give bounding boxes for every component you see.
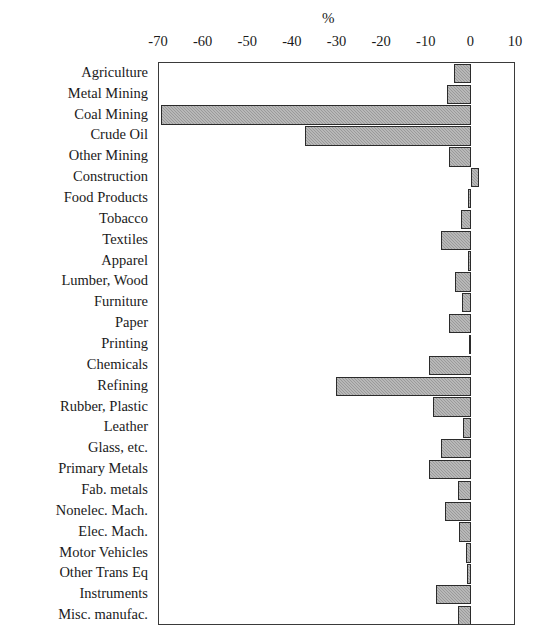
x-axis-unit-label: % bbox=[322, 10, 335, 27]
bar bbox=[455, 272, 471, 291]
y-axis-label: Chemicals bbox=[0, 357, 152, 372]
bars-layer bbox=[159, 63, 514, 624]
bar bbox=[433, 397, 471, 416]
bar bbox=[468, 189, 471, 208]
y-axis-label: Crude Oil bbox=[0, 127, 152, 142]
x-tick-label: -50 bbox=[225, 33, 269, 50]
bar bbox=[467, 564, 471, 583]
y-axis-label: Refining bbox=[0, 378, 152, 393]
bar bbox=[429, 460, 471, 479]
y-axis-label: Rubber, Plastic bbox=[0, 399, 152, 414]
bar bbox=[469, 335, 471, 354]
bar bbox=[445, 502, 471, 521]
bar bbox=[447, 85, 471, 104]
bar bbox=[458, 481, 472, 500]
bar bbox=[449, 147, 471, 166]
x-tick-label: -60 bbox=[181, 33, 225, 50]
y-axis-label: Instruments bbox=[0, 586, 152, 601]
y-axis-label: Tobacco bbox=[0, 211, 152, 226]
bar bbox=[463, 418, 471, 437]
bar bbox=[462, 293, 472, 312]
x-tick-label: -30 bbox=[315, 33, 359, 50]
y-axis-label: Textiles bbox=[0, 232, 152, 247]
bar bbox=[429, 356, 471, 375]
x-tick-label: -20 bbox=[359, 33, 403, 50]
y-axis-label: Apparel bbox=[0, 253, 152, 268]
bar bbox=[468, 251, 471, 270]
y-axis-label: Construction bbox=[0, 169, 152, 184]
y-axis-label: Leather bbox=[0, 419, 152, 434]
y-axis-label: Metal Mining bbox=[0, 86, 152, 101]
bar bbox=[441, 439, 471, 458]
y-axis-label: Printing bbox=[0, 336, 152, 351]
bar bbox=[458, 606, 472, 624]
bar bbox=[441, 231, 471, 250]
y-axis-label: Agriculture bbox=[0, 65, 152, 80]
bar bbox=[336, 377, 472, 396]
y-axis-label: Elec. Mach. bbox=[0, 524, 152, 539]
y-axis-label: Nonelec. Mach. bbox=[0, 503, 152, 518]
bar bbox=[459, 522, 471, 541]
y-axis-label: Paper bbox=[0, 315, 152, 330]
y-axis-label: Furniture bbox=[0, 294, 152, 309]
y-axis-label: Misc. manufac. bbox=[0, 607, 152, 622]
bar bbox=[436, 585, 472, 604]
y-axis-label: Primary Metals bbox=[0, 461, 152, 476]
y-axis-label: Other Trans Eq bbox=[0, 565, 152, 580]
bar bbox=[305, 126, 471, 145]
x-tick-label: -70 bbox=[136, 33, 180, 50]
x-tick-label: -40 bbox=[270, 33, 314, 50]
y-axis-label: Glass, etc. bbox=[0, 440, 152, 455]
plot-frame bbox=[158, 62, 515, 625]
bar bbox=[454, 64, 472, 83]
x-tick-label: 10 bbox=[493, 33, 537, 50]
x-axis-tick-labels: -70-60-50-40-30-20-10010 bbox=[0, 33, 546, 53]
bar bbox=[161, 105, 471, 124]
bar bbox=[449, 314, 472, 333]
y-axis-label: Motor Vehicles bbox=[0, 545, 152, 560]
x-tick-label: -10 bbox=[404, 33, 448, 50]
y-axis-label: Food Products bbox=[0, 190, 152, 205]
bar bbox=[471, 168, 479, 187]
bar bbox=[466, 543, 472, 562]
x-tick-label: 0 bbox=[448, 33, 492, 50]
y-axis-label: Fab. metals bbox=[0, 482, 152, 497]
y-axis-label: Lumber, Wood bbox=[0, 273, 152, 288]
bar bbox=[461, 210, 472, 229]
y-axis-label: Other Mining bbox=[0, 148, 152, 163]
y-axis-label: Coal Mining bbox=[0, 107, 152, 122]
bar-chart: % -70-60-50-40-30-20-10010 AgricultureMe… bbox=[0, 0, 546, 643]
